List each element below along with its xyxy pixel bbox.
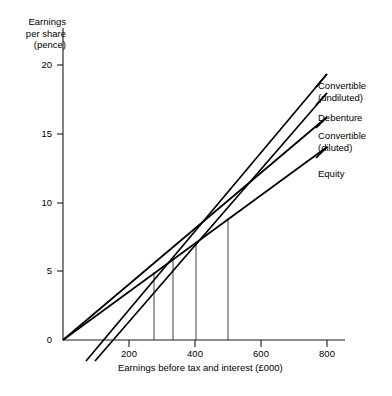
y-tick-label-15: 15 <box>30 128 52 140</box>
y-tick-label-5: 5 <box>30 265 52 277</box>
x-tick-label-600: 600 <box>246 348 276 360</box>
y-axis-title-line-3: (pence) <box>14 39 66 51</box>
series-label-convertible-undiluted-line-1: Convertible <box>318 80 390 92</box>
series-label-equity-line-1: Equity <box>318 168 390 180</box>
eps-chart: Earnings per share (pence) 20 15 10 5 0 … <box>0 0 392 396</box>
series-label-debenture-line-1: Debenture <box>318 112 390 124</box>
y-tick-label-20: 20 <box>30 59 52 71</box>
x-tick-label-200: 200 <box>114 348 144 360</box>
series-line-equity <box>63 147 327 340</box>
y-axis-title-line-2: per share <box>14 28 66 40</box>
series-line-convertible-undiluted <box>86 74 327 361</box>
series-label-convertible-undiluted: Convertible (undiluted) <box>318 80 390 103</box>
x-tick-label-800: 800 <box>312 348 342 360</box>
series-label-convertible-diluted: Convertible (diluted) <box>318 130 390 153</box>
series-line-debenture <box>95 93 327 361</box>
x-axis-title: Earnings before tax and interest (£000) <box>118 362 283 374</box>
series-label-equity: Equity <box>318 168 390 180</box>
y-tick-label-10: 10 <box>30 197 52 209</box>
series-label-convertible-diluted-line-1: Convertible <box>318 130 390 142</box>
series-label-convertible-undiluted-line-2: (undiluted) <box>318 92 390 104</box>
series-label-debenture: Debenture <box>318 112 390 124</box>
series-line-convertible-diluted <box>63 117 327 340</box>
x-tick-label-400: 400 <box>180 348 210 360</box>
y-tick-label-0: 0 <box>30 334 52 346</box>
chart-canvas <box>0 0 392 396</box>
y-axis-title-line-1: Earnings <box>14 16 66 28</box>
series-label-convertible-diluted-line-2: (diluted) <box>318 142 390 154</box>
y-axis-title: Earnings per share (pence) <box>14 16 66 51</box>
